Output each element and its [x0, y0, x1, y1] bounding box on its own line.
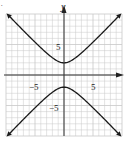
x-tick-label-5: 5: [91, 82, 96, 92]
y-tick-label-5: 5: [56, 42, 61, 52]
x-tick-label-neg5: −5: [29, 82, 39, 92]
hyperbola-plot: y −5 5 5 −5 .: [0, 0, 128, 142]
y-axis-label: y: [60, 1, 66, 12]
y-tick-label-neg5: −5: [49, 103, 59, 113]
